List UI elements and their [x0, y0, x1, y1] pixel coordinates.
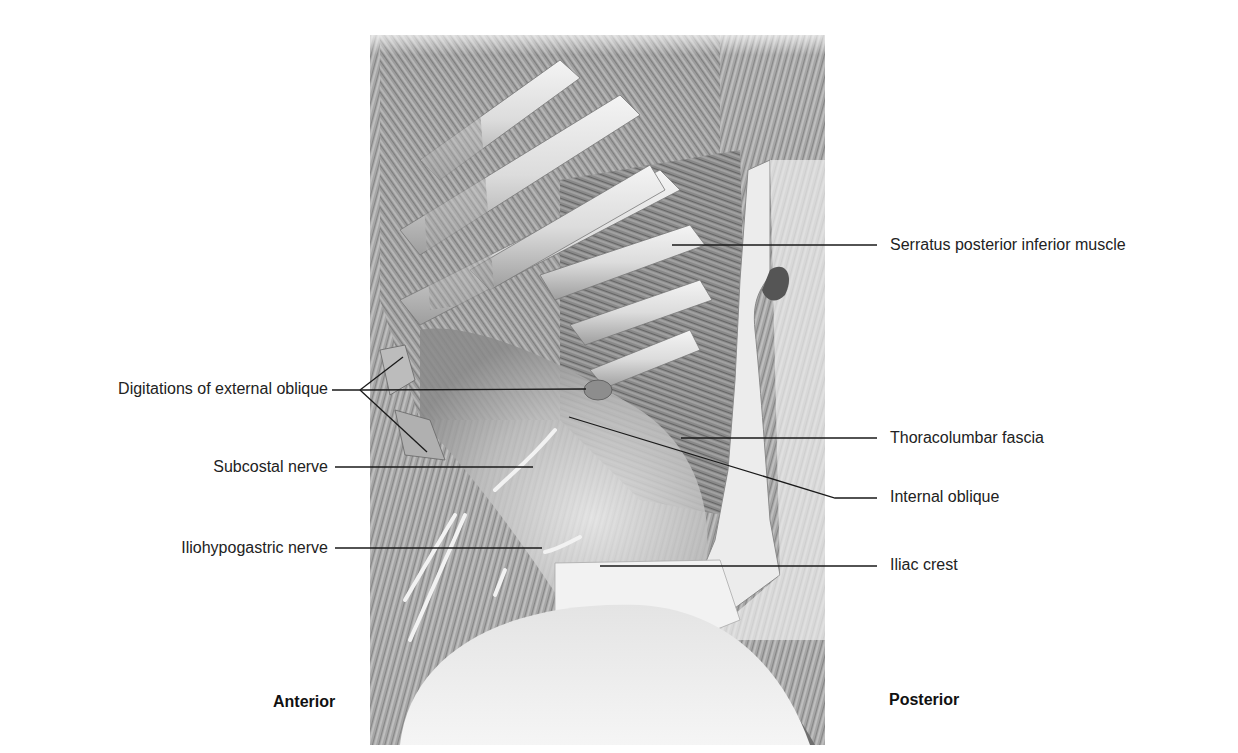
orientation-posterior: Posterior: [889, 691, 959, 709]
orientation-anterior: Anterior: [273, 693, 335, 711]
label-serratus-posterior-inferior-muscle: Serratus posterior inferior muscle: [890, 236, 1126, 254]
anatomical-illustration: [0, 0, 1238, 753]
label-iliac-crest: Iliac crest: [890, 556, 958, 574]
label-iliohypogastric-nerve: Iliohypogastric nerve: [181, 539, 328, 557]
label-digitations-of-external-oblique: Digitations of external oblique: [118, 380, 328, 398]
label-subcostal-nerve: Subcostal nerve: [213, 458, 328, 476]
label-thoracolumbar-fascia: Thoracolumbar fascia: [890, 429, 1044, 447]
label-internal-oblique: Internal oblique: [890, 488, 999, 506]
